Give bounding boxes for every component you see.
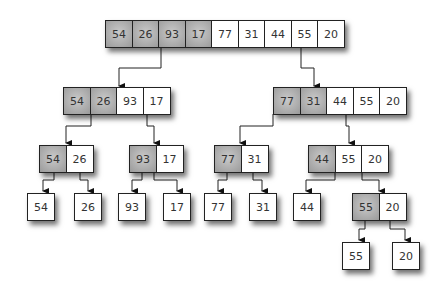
cell: 26 — [74, 193, 102, 221]
array-93: 93 — [118, 193, 146, 221]
cell: 20 — [379, 87, 407, 115]
cell: 26 — [90, 87, 118, 115]
array-31: 31 — [249, 193, 277, 221]
array-54: 54 — [27, 193, 55, 221]
cell: 93 — [118, 193, 146, 221]
cell: 20 — [379, 193, 407, 221]
array-93-17: 93 17 — [129, 145, 184, 173]
array-full: 54 26 93 17 77 31 44 55 20 — [105, 20, 345, 48]
cell: 93 — [116, 87, 144, 115]
cell: 55 — [352, 193, 380, 221]
cell: 17 — [163, 193, 191, 221]
cell: 44 — [308, 145, 336, 173]
cell: 31 — [249, 193, 277, 221]
cell: 77 — [211, 20, 239, 48]
array-20: 20 — [392, 242, 420, 270]
cell: 93 — [129, 145, 157, 173]
cell: 44 — [326, 87, 354, 115]
array-17: 17 — [163, 193, 191, 221]
cell: 55 — [342, 242, 370, 270]
cell: 55 — [291, 20, 319, 48]
cell: 31 — [300, 87, 328, 115]
cell: 20 — [317, 20, 345, 48]
cell: 55 — [335, 145, 363, 173]
cell: 31 — [241, 145, 269, 173]
cell: 26 — [66, 145, 94, 173]
cell: 20 — [392, 242, 420, 270]
cell: 77 — [204, 193, 232, 221]
cell: 77 — [214, 145, 242, 173]
cell: 54 — [105, 20, 133, 48]
array-54-26: 54 26 — [39, 145, 94, 173]
cell: 93 — [158, 20, 186, 48]
array-right-half: 77 31 44 55 20 — [273, 87, 407, 115]
array-77-31: 77 31 — [214, 145, 269, 173]
cell: 17 — [143, 87, 171, 115]
cell: 26 — [132, 20, 160, 48]
cell: 17 — [185, 20, 213, 48]
array-77: 77 — [204, 193, 232, 221]
cell: 44 — [293, 193, 321, 221]
cell: 77 — [273, 87, 301, 115]
cell: 17 — [156, 145, 184, 173]
array-26: 26 — [74, 193, 102, 221]
array-44: 44 — [293, 193, 321, 221]
cell: 54 — [39, 145, 67, 173]
cell: 20 — [361, 145, 389, 173]
array-55: 55 — [342, 242, 370, 270]
cell: 54 — [63, 87, 91, 115]
cell: 54 — [27, 193, 55, 221]
cell: 55 — [353, 87, 381, 115]
cell: 31 — [238, 20, 266, 48]
cell: 44 — [264, 20, 292, 48]
array-55-20: 55 20 — [352, 193, 407, 221]
array-44-55-20: 44 55 20 — [308, 145, 389, 173]
array-left-half: 54 26 93 17 — [63, 87, 171, 115]
